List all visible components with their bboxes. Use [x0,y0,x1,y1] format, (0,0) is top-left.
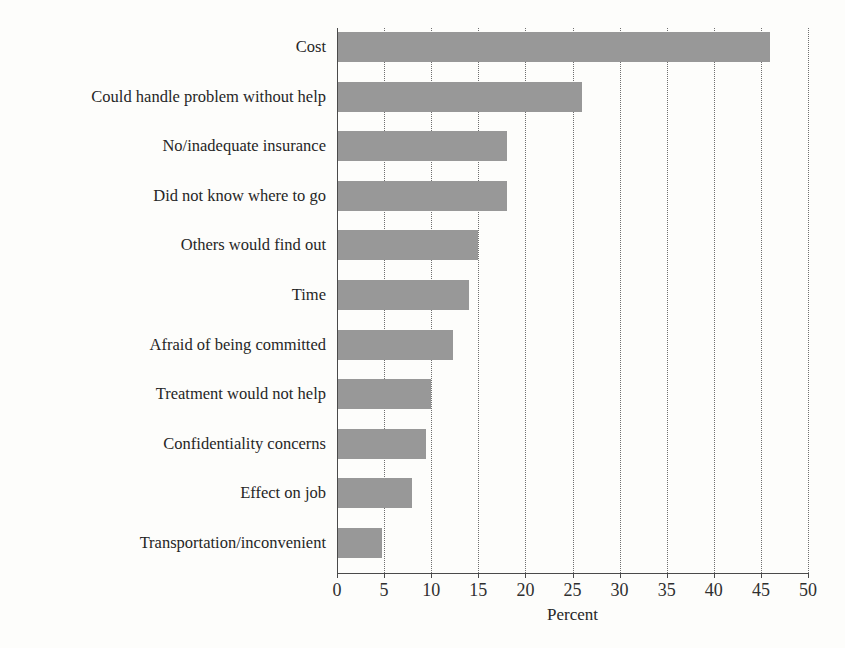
x-tick-label: 30 [598,579,642,601]
x-axis-title: Percent [337,604,808,625]
x-tick-label: 15 [456,579,500,601]
x-tick-label: 10 [409,579,453,601]
tick-mark [573,573,574,578]
tick-mark [714,573,715,578]
tick-mark [431,573,432,578]
x-tick-label: 25 [551,579,595,601]
bar-chart: CostCould handle problem without helpNo/… [0,0,845,648]
x-tick-label: 35 [645,579,689,601]
x-tick-label: 50 [786,579,830,601]
tick-mark [667,573,668,578]
x-tick-label: 5 [362,579,406,601]
tick-mark [478,573,479,578]
tick-mark [384,573,385,578]
tick-mark [337,573,338,578]
x-tick-label: 45 [739,579,783,601]
tick-mark [761,573,762,578]
x-tick-label: 20 [503,579,547,601]
tick-mark [620,573,621,578]
x-tick-label: 40 [692,579,736,601]
tick-mark [525,573,526,578]
x-axis-ticks: 05101520253035404550 [0,0,845,648]
x-tick-label: 0 [315,579,359,601]
tick-mark [808,573,809,578]
